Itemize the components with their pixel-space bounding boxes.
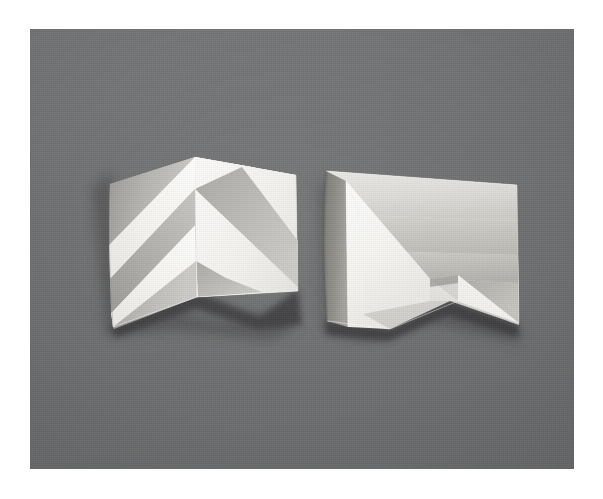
screenshot-root: [0, 0, 603, 499]
right-model: [318, 171, 522, 343]
rm-left-flap: [324, 171, 348, 327]
models-svg: [30, 29, 574, 469]
photograph: [30, 29, 574, 469]
models-stage: [30, 29, 574, 469]
